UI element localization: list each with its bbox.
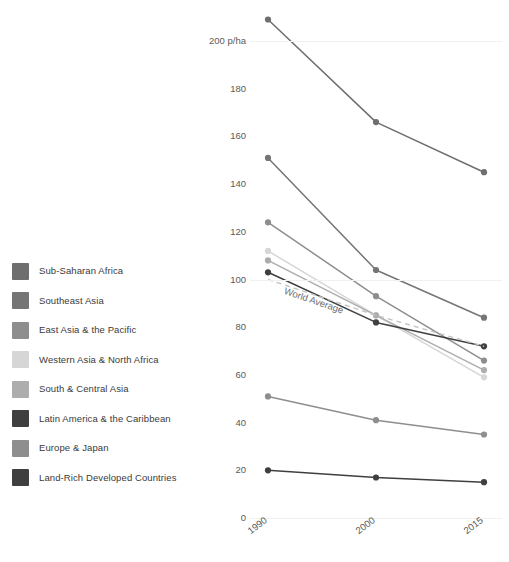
data-point[interactable] [481, 315, 487, 321]
data-point[interactable] [481, 479, 487, 485]
y-axis-tick-label: 180 [190, 84, 246, 94]
data-point[interactable] [373, 417, 379, 423]
data-point[interactable] [373, 119, 379, 125]
y-axis-tick-label: 0 [190, 513, 246, 523]
y-axis-tick-label: 160 [190, 131, 246, 141]
series-lines-layer [0, 0, 509, 562]
data-point[interactable] [373, 267, 379, 273]
land-per-capita-line-chart: Sub-Saharan AfricaSoutheast AsiaEast Asi… [0, 0, 509, 562]
data-point[interactable] [265, 155, 271, 161]
y-axis-tick-label: 20 [190, 465, 246, 475]
y-axis-tick-label: 80 [190, 322, 246, 332]
y-gridline [250, 518, 502, 519]
y-gridline [250, 41, 502, 42]
data-point[interactable] [481, 374, 487, 380]
plot-area: 020406080100120140160180200 p/ha19902000… [0, 0, 509, 562]
series-line-latin-america-the-caribbean [268, 272, 484, 346]
y-axis-tick-label: 100 [190, 275, 246, 285]
data-point[interactable] [373, 319, 379, 325]
data-point[interactable] [373, 293, 379, 299]
series-line-sub-saharan-africa [268, 20, 484, 173]
data-point[interactable] [265, 393, 271, 399]
data-point[interactable] [481, 431, 487, 437]
data-point[interactable] [265, 467, 271, 473]
series-line-europe-japan [268, 396, 484, 434]
y-axis-tick-label: 60 [190, 370, 246, 380]
y-axis-tick-label: 140 [190, 179, 246, 189]
data-point[interactable] [265, 219, 271, 225]
data-point[interactable] [481, 169, 487, 175]
data-point[interactable] [265, 16, 271, 22]
data-point[interactable] [265, 257, 271, 263]
data-point[interactable] [373, 474, 379, 480]
data-point[interactable] [265, 248, 271, 254]
y-gridline [250, 280, 502, 281]
data-point[interactable] [265, 269, 271, 275]
data-point[interactable] [481, 367, 487, 373]
data-point[interactable] [481, 358, 487, 364]
y-axis-tick-label: 120 [190, 227, 246, 237]
y-axis-tick-label: 40 [190, 418, 246, 428]
y-axis-tick-label: 200 p/ha [190, 36, 246, 46]
